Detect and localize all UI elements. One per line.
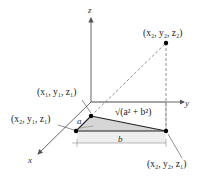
z-axis-label: z [87,5,92,15]
distance-diagram: z y x (x₂, y₂, z₂) (x₁, y₁, z₁) (x₂, y₁,… [0,0,211,182]
y-axis-label: y [184,98,189,108]
label-point-2: (x₂, y₁, z₁) [11,114,50,125]
dashed-diagonal [91,43,166,116]
point-1 [89,114,93,118]
label-point-1: (x₁, y₁, z₁) [37,87,76,98]
label-a: a [77,116,82,126]
label-hypotenuse: √(a² + b²) [115,107,151,118]
x-axis-label: x [27,155,32,165]
label-b: b [118,134,123,144]
label-point-3: (x₂, y₂, z₁) [147,159,186,170]
point-3 [164,129,168,133]
point-2 [74,129,78,133]
label-point-top: (x₂, y₂, z₂) [143,28,182,39]
point-top [164,41,168,45]
